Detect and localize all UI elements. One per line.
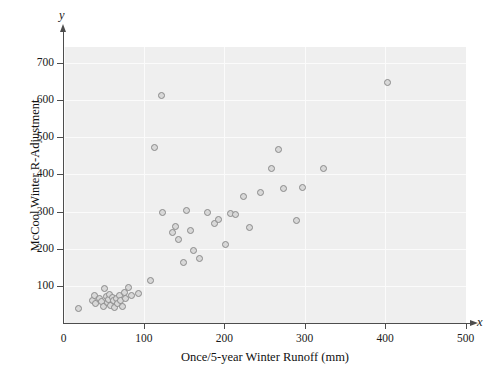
y-tick-mark [57, 137, 63, 138]
x-tick-label: 0 [44, 332, 84, 344]
gridline-horizontal [64, 100, 466, 101]
x-axis-variable-letter: x [477, 315, 483, 330]
gridline-horizontal [64, 212, 466, 213]
data-point [320, 165, 327, 172]
data-point [128, 292, 135, 299]
y-tick-mark [57, 174, 63, 175]
x-axis-line [63, 323, 472, 324]
scatter-plot-figure: y x 100200300400500600700 01002003004005… [0, 0, 487, 382]
gridline-vertical [385, 47, 386, 323]
y-axis-title: McCool Winter R-Adjustment [28, 66, 43, 286]
data-point [293, 217, 300, 224]
y-axis-variable-letter: y [59, 8, 65, 23]
y-axis-arrowhead [60, 24, 66, 32]
x-tick-label: 300 [285, 332, 325, 344]
x-tick-mark [466, 323, 467, 329]
data-point [119, 303, 126, 310]
x-axis-title: Once/5-year Winter Runoff (mm) [64, 350, 466, 365]
data-point [190, 247, 197, 254]
y-tick-mark [57, 286, 63, 287]
data-point [175, 236, 182, 243]
data-point [196, 255, 203, 262]
data-point [75, 305, 82, 312]
data-point [151, 144, 158, 151]
x-tick-label: 200 [204, 332, 244, 344]
data-point [125, 284, 132, 291]
data-point [280, 185, 287, 192]
x-tick-mark [305, 323, 306, 329]
data-point [246, 224, 253, 231]
data-point [204, 209, 211, 216]
x-tick-mark [385, 323, 386, 329]
data-point [159, 209, 166, 216]
plot-area [64, 47, 466, 323]
x-tick-mark [224, 323, 225, 329]
data-point [222, 241, 229, 248]
data-point [257, 189, 264, 196]
x-tick-label: 100 [124, 332, 164, 344]
gridline-vertical [224, 47, 225, 323]
data-point [172, 223, 179, 230]
gridline-vertical [466, 47, 467, 323]
data-point [232, 211, 239, 218]
data-point [180, 259, 187, 266]
data-point [384, 79, 391, 86]
y-tick-mark [57, 212, 63, 213]
gridline-horizontal [64, 63, 466, 64]
data-point [187, 227, 194, 234]
gridline-vertical [144, 47, 145, 323]
x-tick-label: 500 [446, 332, 486, 344]
data-point [147, 277, 154, 284]
data-point [135, 290, 142, 297]
x-tick-mark [144, 323, 145, 329]
y-axis-line [63, 30, 64, 323]
y-tick-mark [57, 249, 63, 250]
x-tick-label: 400 [365, 332, 405, 344]
data-point [299, 184, 306, 191]
data-point [275, 146, 282, 153]
gridline-horizontal [64, 174, 466, 175]
gridline-horizontal [64, 137, 466, 138]
data-point [183, 207, 190, 214]
y-tick-mark [57, 100, 63, 101]
gridline-horizontal [64, 249, 466, 250]
data-point [268, 165, 275, 172]
y-tick-mark [57, 63, 63, 64]
data-point [158, 92, 165, 99]
data-point [240, 193, 247, 200]
data-point [215, 216, 222, 223]
